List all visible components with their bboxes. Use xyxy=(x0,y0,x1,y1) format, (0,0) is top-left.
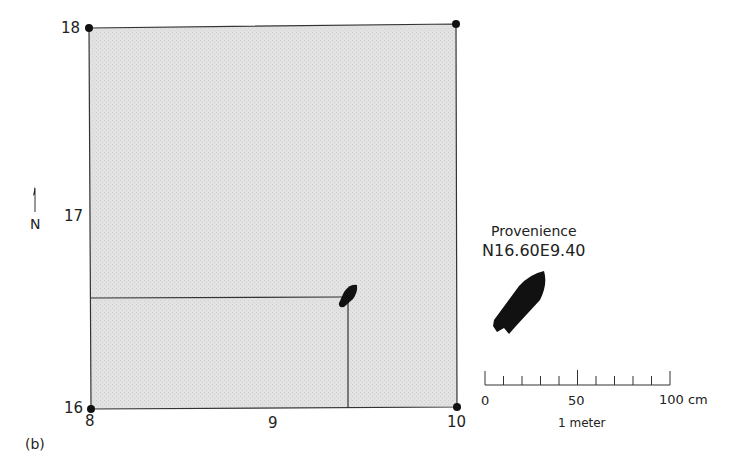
provenience-value: N16.60E9.40 xyxy=(482,241,586,260)
grid-unit-fill xyxy=(89,24,457,409)
provenience-title: Provenience xyxy=(491,223,577,239)
artifact-enlarged-icon xyxy=(493,271,545,334)
north-arrow-icon xyxy=(33,186,35,212)
panel-label: (b) xyxy=(25,436,45,452)
datum-point-se xyxy=(453,403,461,411)
scale-label-mid: 50 xyxy=(568,393,585,408)
easting-label-8: 8 xyxy=(85,412,95,430)
northing-label-17: 17 xyxy=(64,207,83,225)
excavation-plan-diagram xyxy=(0,0,729,474)
northing-label-16: 16 xyxy=(64,399,83,417)
scale-caption: 1 meter xyxy=(558,416,606,430)
datum-point-nw xyxy=(85,24,93,32)
grid-unit xyxy=(89,24,457,409)
datum-point-ne xyxy=(452,20,460,28)
northing-label-18: 18 xyxy=(61,19,80,37)
easting-label-9: 9 xyxy=(268,414,278,432)
scale-label-end: 100 cm xyxy=(659,392,708,407)
scale-bar xyxy=(485,370,670,385)
north-label: N xyxy=(30,216,40,232)
scale-label-start: 0 xyxy=(481,393,489,408)
easting-label-10: 10 xyxy=(447,413,466,431)
